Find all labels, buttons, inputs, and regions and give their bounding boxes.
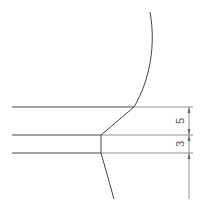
dimension-label-3: 3 <box>174 141 186 147</box>
arrow-3-bottom-icon <box>188 153 191 159</box>
arrow-5-bottom-icon <box>188 129 191 135</box>
profile-curve <box>134 12 152 107</box>
arrow-5-top-icon <box>188 107 191 113</box>
dimension-label-5: 5 <box>174 118 186 124</box>
arrow-3-top-icon <box>188 135 191 141</box>
chamfer-line <box>101 107 134 135</box>
technical-drawing: 5 3 <box>0 0 206 214</box>
lower-taper-line <box>101 153 114 199</box>
